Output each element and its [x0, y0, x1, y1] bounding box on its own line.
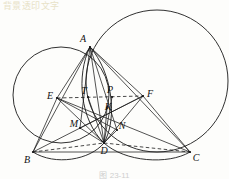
- point-label-D: D: [100, 146, 107, 156]
- segment-BD-dashed: [33, 143, 104, 152]
- arc-B-D-bottom: [33, 143, 104, 160]
- segment-MD: [80, 128, 104, 143]
- vertex-dot-C: [189, 151, 191, 153]
- vertex-dot-F: [142, 95, 144, 97]
- vertex-dot-B: [32, 151, 34, 153]
- vertex-dot-T: [87, 96, 89, 98]
- segment-EF: [57, 96, 143, 98]
- point-label-T: T: [81, 86, 87, 96]
- point-label-A: A: [80, 34, 86, 44]
- point-label-M: M: [70, 119, 78, 129]
- point-label-N: N: [119, 121, 126, 131]
- point-label-P: P: [107, 85, 113, 95]
- vertex-dot-D: [103, 142, 105, 144]
- segment-DC-dashed: [104, 143, 190, 152]
- point-label-F: F: [147, 89, 153, 99]
- point-label-C: C: [193, 153, 200, 163]
- segment-EB: [33, 98, 57, 152]
- figure-caption: 图 23-11: [0, 171, 229, 179]
- segment-FB: [33, 96, 143, 152]
- solid-lines-group: [33, 47, 190, 152]
- point-label-E: E: [47, 91, 53, 101]
- vertex-dot-A: [89, 46, 91, 48]
- point-label-K: K: [105, 102, 112, 112]
- figure-container: 背景透印文字 ABCDEFTPKMN 图 23-11: [0, 0, 229, 179]
- vertex-dot-E: [56, 97, 58, 99]
- segment-FC: [143, 96, 190, 152]
- vertex-dot-M: [79, 127, 81, 129]
- segment-AD: [90, 47, 104, 143]
- vertex-dot-P: [111, 96, 113, 98]
- point-label-B: B: [24, 155, 30, 165]
